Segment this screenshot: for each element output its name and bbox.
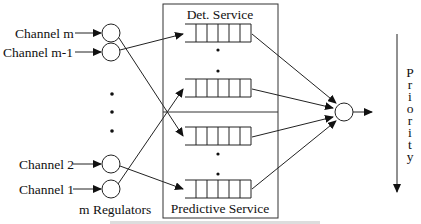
scheduler-circle bbox=[335, 103, 353, 121]
scheduler-diagram: Channel m Channel m-1 Channel 2 Channel … bbox=[0, 0, 421, 224]
priority-label: P r i o r i t y bbox=[406, 65, 414, 164]
regulator-circle-1 bbox=[102, 180, 120, 198]
regulators-label: m Regulators bbox=[79, 202, 151, 217]
service-box bbox=[163, 4, 278, 218]
predictive-service-label: Predictive Service bbox=[171, 201, 270, 216]
queue-det-2 bbox=[185, 79, 251, 97]
queue-pred-2 bbox=[185, 180, 251, 198]
caption-cutoff bbox=[110, 221, 320, 224]
svg-text:y: y bbox=[407, 149, 414, 164]
queue-det-1 bbox=[185, 24, 251, 42]
regulator-circle-2 bbox=[102, 155, 120, 173]
channel-ellipsis-dots bbox=[110, 92, 114, 133]
channel-label-1: Channel 1 bbox=[19, 182, 74, 197]
channel-label-m-1: Channel m-1 bbox=[3, 45, 73, 60]
queue-pred-1 bbox=[185, 127, 251, 145]
channel-label-m: Channel m bbox=[15, 26, 74, 41]
regulator-circle-m-1 bbox=[102, 43, 120, 61]
channel-label-2: Channel 2 bbox=[19, 157, 74, 172]
det-service-label: Det. Service bbox=[187, 7, 254, 22]
regulator-circle-m bbox=[102, 24, 120, 42]
channel-input-arrows bbox=[73, 33, 101, 189]
